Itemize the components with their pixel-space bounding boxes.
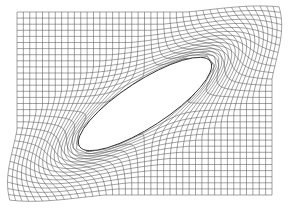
mesh-line (17, 15, 281, 24)
mesh-line (8, 12, 17, 200)
mesh-line (21, 12, 36, 201)
mesh-line (17, 19, 282, 30)
mesh-line (9, 165, 272, 180)
mesh-line (17, 11, 280, 19)
mesh-line (10, 195, 272, 201)
mesh-line (266, 6, 277, 195)
mesh-line (54, 12, 87, 197)
mesh-line (17, 31, 280, 48)
mesh-line (10, 158, 272, 176)
mesh-line (17, 23, 282, 36)
mesh-line (8, 183, 272, 193)
mesh-diagram (0, 0, 288, 212)
mesh-line (9, 189, 272, 197)
